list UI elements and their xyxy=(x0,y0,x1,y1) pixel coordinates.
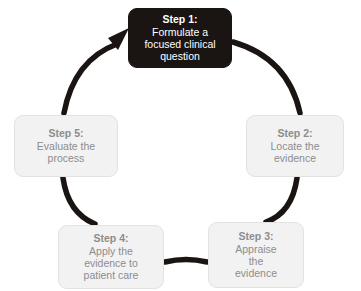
step-line: evidence xyxy=(235,267,277,279)
step-line: Appraise xyxy=(235,243,276,255)
step-line: Formulate a xyxy=(152,26,208,38)
step-title: Step 1: xyxy=(162,13,197,25)
step-line: evidence to xyxy=(84,257,138,269)
arc-step4-to-step5 xyxy=(63,178,95,224)
step-line: process xyxy=(48,152,85,164)
step-title: Step 5: xyxy=(48,127,83,139)
step-line: focused clinical xyxy=(144,38,215,50)
step-line: Evaluate the xyxy=(37,140,95,152)
step-title: Step 3: xyxy=(238,230,273,242)
step-line: Apply the xyxy=(89,245,133,257)
step-node-step-3[interactable]: Step 3: Appraise the evidence xyxy=(208,222,304,288)
step-line: the xyxy=(249,255,264,267)
arc-step2-to-step3 xyxy=(266,178,297,222)
step-node-step-2[interactable]: Step 2: Locate the evidence xyxy=(246,115,344,177)
step-line: evidence xyxy=(274,152,316,164)
step-line: patient care xyxy=(84,269,139,281)
step-title: Step 2: xyxy=(277,127,312,139)
step-line: question xyxy=(160,50,200,62)
step-line: Locate the xyxy=(270,140,319,152)
arc-step5-to-step1 xyxy=(64,44,117,113)
arc-step1-to-step2 xyxy=(233,42,300,113)
connector-step4-to-step3 xyxy=(165,260,207,263)
step-node-step-4[interactable]: Step 4: Apply the evidence to patient ca… xyxy=(58,225,164,289)
step-node-step-5[interactable]: Step 5: Evaluate the process xyxy=(14,115,118,177)
step-node-step-1[interactable]: Step 1: Formulate a focused clinical que… xyxy=(128,8,232,68)
step-title: Step 4: xyxy=(93,232,128,244)
evidence-based-practice-cycle-diagram: Step 1: Formulate a focused clinical que… xyxy=(0,0,361,291)
